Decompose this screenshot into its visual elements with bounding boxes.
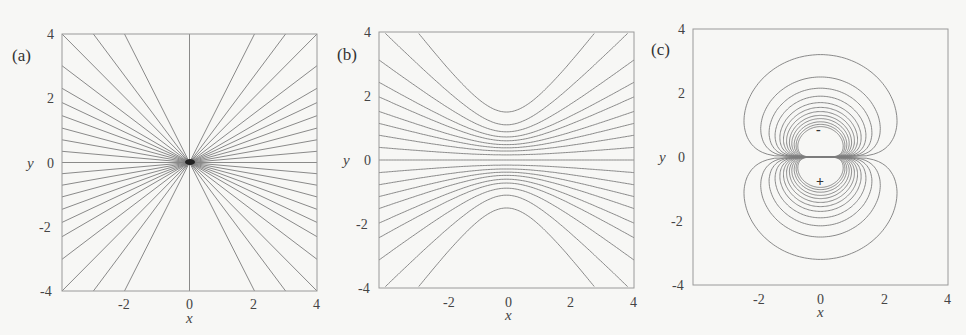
panel-c-ylabel: y [657, 149, 666, 165]
panel-a-ytick-neg4: -4 [40, 284, 52, 299]
panel-a-ytick-neg2: -2 [39, 220, 51, 235]
hyperbolic-field-line [379, 169, 634, 185]
panel-a-xtick-neg2: -2 [118, 297, 130, 312]
dipole-contour [761, 157, 881, 237]
hyperbolic-field-line [379, 183, 634, 238]
hyperbolic-field-line [419, 208, 594, 287]
hyperbolic-field-line [379, 172, 634, 196]
hyperbolic-field-line [419, 34, 594, 113]
panel-c-xtick-2: 2 [881, 292, 888, 307]
dipole-contour [744, 55, 897, 157]
panel-a-ytick-2: 2 [47, 91, 54, 106]
panel-b-ytick-2: 2 [364, 89, 371, 104]
panel-c-xtick-neg2: -2 [753, 292, 765, 307]
hyperbolic-field-line [379, 82, 634, 137]
panel-b-label: (b) [337, 45, 357, 64]
hyperbolic-field-line [379, 135, 634, 151]
panel-c-xlabel: x [816, 304, 824, 320]
panel-b-field-lines [379, 33, 634, 286]
hyperbolic-field-line [379, 60, 634, 132]
panel-b-ylabel: y [341, 152, 350, 168]
hyperbolic-field-line [379, 111, 634, 144]
panel-c-label: (c) [651, 40, 670, 59]
panel-a-label: (a) [12, 46, 31, 65]
panel-a-xtick-4: 4 [313, 297, 320, 312]
hyperbolic-field-line [379, 175, 634, 208]
panel-b: (b) 4 2 0 -2 -4 y -2 0 2 4 x [337, 25, 637, 323]
panel-a-xtick-2: 2 [250, 297, 257, 312]
panel-a-ytick-4: 4 [47, 27, 54, 42]
figure: (a) 4 2 0 -2 -4 y -2 0 2 4 x (b) 4 2 0 -… [0, 0, 966, 335]
panel-b-xtick-2: 2 [567, 295, 574, 310]
positive-charge-marker: + [816, 174, 824, 189]
hyperbolic-field-line [379, 188, 634, 260]
panel-b-ytick-4: 4 [364, 25, 371, 40]
panel-a-ytick-0: 0 [47, 156, 54, 171]
panel-c: (c) 4 2 0 -2 -4 y -2 0 2 4 x - + [651, 22, 951, 320]
negative-charge-marker: - [816, 122, 821, 137]
panel-a: (a) 4 2 0 -2 -4 y -2 0 2 4 x [12, 27, 320, 326]
hyperbolic-field-line [385, 195, 627, 286]
origin-singularity [185, 159, 195, 165]
panel-c-contours [744, 55, 897, 260]
panel-c-xtick-4: 4 [944, 292, 951, 307]
panel-c-ytick-4: 4 [678, 22, 685, 37]
panel-c-ytick-neg4: -4 [672, 278, 684, 293]
panel-b-ytick-neg2: -2 [356, 217, 368, 232]
panel-a-field-lines [62, 34, 317, 291]
panel-b-xlabel: x [504, 307, 512, 323]
panel-b-ytick-0: 0 [364, 153, 371, 168]
panel-b-xtick-4: 4 [630, 295, 637, 310]
hyperbolic-field-line [385, 33, 627, 124]
panel-b-ytick-neg4: -4 [358, 281, 370, 296]
dipole-contour [744, 157, 897, 259]
panel-a-ylabel: y [25, 155, 34, 171]
hyperbolic-field-line [379, 123, 634, 147]
panel-a-xlabel: x [185, 310, 193, 326]
panel-c-ytick-0: 0 [678, 150, 685, 165]
dipole-contour [761, 77, 881, 157]
panel-c-ytick-neg2: -2 [671, 214, 683, 229]
panel-c-ytick-2: 2 [678, 86, 685, 101]
panel-b-xtick-neg2: -2 [443, 295, 455, 310]
